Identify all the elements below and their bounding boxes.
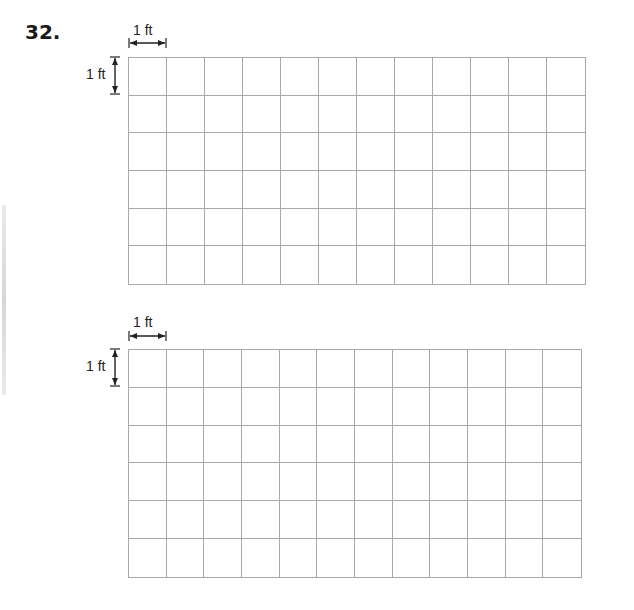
square-grid-1 [128,57,586,285]
grid-cell [509,171,547,209]
grid-cell [393,501,431,539]
grid-cell [468,350,506,388]
grid-cell [167,96,205,134]
grid-cell [506,388,544,426]
grid-cell [129,350,167,388]
grid-cell [280,501,318,539]
grid-cell [281,171,319,209]
grid-cell [319,171,357,209]
grid-cell [355,501,393,539]
grid-cell [319,209,357,247]
horizontal-scale-arrow-icon [128,38,168,50]
grid-cell [471,209,509,247]
grid-cell [468,426,506,464]
grid-cell [280,539,318,577]
grid-cell [430,463,468,501]
vertical-scale-label: 1 ft [86,66,105,82]
grid-cell [433,133,471,171]
grid-cell [243,171,281,209]
grid-cell [430,388,468,426]
grid-cell [243,133,281,171]
grid-cell [167,501,205,539]
grid-cell [509,133,547,171]
grid-cell [129,501,167,539]
grid-cell [355,426,393,464]
grid-cell [204,388,242,426]
grid-cell [319,246,357,284]
grid-cell [129,426,167,464]
grid-cell [129,96,167,134]
grid-cell [393,350,431,388]
page-spine-shadow [2,205,6,395]
problem-number: 32. [25,20,60,44]
grid-cell [205,133,243,171]
grid-cell [357,58,395,96]
grid-cell [357,209,395,247]
grid-cell [129,388,167,426]
grid-cell [509,58,547,96]
grid-cell [317,463,355,501]
grid-cell [243,96,281,134]
grid-cell [205,96,243,134]
grid-cell [471,171,509,209]
grid-cell [281,96,319,134]
grid-cell [430,539,468,577]
grid-cell [543,426,581,464]
grid-cell [471,96,509,134]
grid-cell [281,58,319,96]
grid-cell [357,96,395,134]
grid-cell [167,539,205,577]
grid-cell [468,539,506,577]
grid-cell [242,463,280,501]
grid-cell [509,246,547,284]
grid-cell [395,246,433,284]
grid-cell [393,463,431,501]
grid-cell [393,388,431,426]
grid-cell [129,209,167,247]
grid-cell [357,133,395,171]
grid-cell [506,350,544,388]
grid-cell [280,463,318,501]
grid-cell [317,350,355,388]
grid-cell [393,426,431,464]
grid-cell [243,246,281,284]
grid-cell [543,463,581,501]
grid-cell [167,426,205,464]
grid-cell [281,246,319,284]
grid-cell [468,463,506,501]
grid-cell [395,96,433,134]
grid-cell [395,133,433,171]
grid-cell [319,96,357,134]
grid-cell [129,246,167,284]
grid-cell [167,133,205,171]
grid-cell [317,501,355,539]
grid-cell [129,133,167,171]
grid-cell [242,350,280,388]
grid-cell [471,133,509,171]
grid-cell [433,171,471,209]
grid-cell [167,463,205,501]
grid-cell [433,58,471,96]
grid-cell [547,246,585,284]
grid-cell [167,58,205,96]
grid-cell [281,133,319,171]
grid-cell [506,463,544,501]
grid-cell [167,388,205,426]
grid-cell [243,209,281,247]
grid-cell [204,463,242,501]
grid-cell [129,171,167,209]
grid-cell [393,539,431,577]
grid-cell [167,350,205,388]
grid-cell [242,426,280,464]
grid-cell [355,350,393,388]
grid-cell [395,171,433,209]
grid-cell [543,350,581,388]
vertical-scale-arrow-icon [110,348,122,388]
grid-cell [317,426,355,464]
grid-cell [167,246,205,284]
vertical-scale-arrow-icon [110,56,122,96]
vertical-scale-label: 1 ft [86,358,105,374]
grid-cell [204,350,242,388]
grid-cell [468,501,506,539]
grid-cell [509,96,547,134]
